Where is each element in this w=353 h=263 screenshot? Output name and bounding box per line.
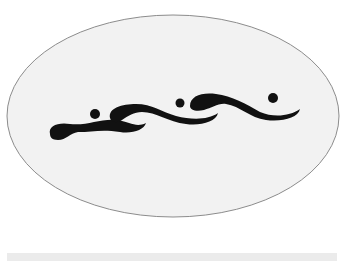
- head-dot-3-icon: [268, 93, 278, 103]
- swimmer-emblem: [0, 0, 353, 263]
- bottom-bar: [7, 253, 337, 261]
- head-dot-2-icon: [176, 99, 185, 108]
- head-dot-1-icon: [90, 109, 100, 119]
